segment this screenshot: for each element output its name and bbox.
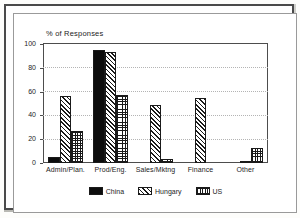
bar-hungary xyxy=(240,161,252,163)
bar-group xyxy=(48,44,83,163)
y-axis-tick xyxy=(40,92,43,93)
bar-group xyxy=(138,44,173,163)
bar-hungary xyxy=(150,105,162,163)
y-axis-tick xyxy=(40,115,43,116)
y-axis-tick-label: 20 xyxy=(18,135,36,142)
bar-chart: % of Responses 020406080100 Admin/Plan.P… xyxy=(0,0,300,218)
y-axis-tick-label: 60 xyxy=(18,88,36,95)
legend-label: US xyxy=(213,188,223,195)
legend-item-us: US xyxy=(196,187,223,195)
legend-item-hungary: Hungary xyxy=(138,187,181,195)
y-axis-tick-label: 40 xyxy=(18,111,36,118)
bar-group xyxy=(183,44,218,163)
legend-swatch-us xyxy=(196,187,210,195)
bars-layer xyxy=(44,44,267,163)
y-axis-tick xyxy=(40,139,43,140)
bar-china xyxy=(48,157,60,163)
bar-hungary xyxy=(195,98,207,163)
y-axis-tick xyxy=(40,163,43,164)
y-axis-tick xyxy=(40,68,43,69)
bar-us xyxy=(116,95,128,163)
bar-hungary xyxy=(60,96,72,163)
chart-legend: ChinaHungaryUS xyxy=(43,185,268,197)
y-axis-tick-label: 80 xyxy=(18,64,36,71)
legend-label: Hungary xyxy=(155,188,181,195)
bar-us xyxy=(251,148,263,163)
legend-swatch-hungary xyxy=(138,187,152,195)
bar-group xyxy=(93,44,128,163)
y-axis-label: % of Responses xyxy=(46,29,103,38)
y-axis-tick-label: 0 xyxy=(18,159,36,166)
x-axis-tick-label: Other xyxy=(216,166,276,173)
bar-us xyxy=(71,131,83,163)
y-axis-tick xyxy=(40,44,43,45)
bar-us xyxy=(161,159,173,163)
bar-hungary xyxy=(105,52,117,163)
legend-label: China xyxy=(106,188,124,195)
legend-swatch-china xyxy=(89,187,103,195)
bar-china xyxy=(93,50,105,163)
bar-group xyxy=(228,44,263,163)
scanned-chart-page: % of Responses 020406080100 Admin/Plan.P… xyxy=(0,0,300,218)
legend-item-china: China xyxy=(89,187,124,195)
y-axis-tick-label: 100 xyxy=(18,40,36,47)
